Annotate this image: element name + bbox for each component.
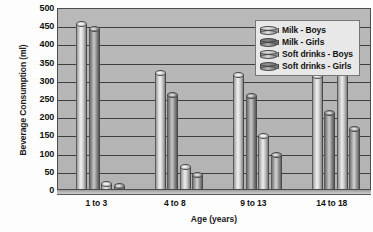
- y-tick-label: 50: [14, 167, 54, 177]
- cylinder-mid-icon: [260, 62, 277, 71]
- bar-body: [246, 96, 257, 190]
- legend-label: Milk - Boys: [282, 25, 326, 35]
- bar: [246, 96, 257, 190]
- swatch-top: [260, 38, 277, 43]
- bar-cap: [89, 26, 100, 32]
- x-axis-tick-labels: 1 to 34 to 89 to 1314 to 18: [57, 198, 371, 210]
- bar-cap: [271, 152, 282, 158]
- bar-cap: [192, 172, 203, 178]
- x-tick-label: 1 to 3: [61, 198, 131, 208]
- y-tick-label: 400: [14, 39, 54, 49]
- bar: [324, 113, 335, 190]
- swatch-top: [260, 50, 277, 55]
- bar-cap: [76, 21, 87, 27]
- bar-body: [76, 24, 87, 190]
- y-tick-label: 450: [14, 21, 54, 31]
- bar-body: [271, 155, 282, 190]
- x-tick-label: 14 to 18: [297, 198, 367, 208]
- beverage-consumption-bar-chart: Beverage Consumption (ml) 05010015020025…: [0, 0, 373, 232]
- bar: [349, 129, 360, 190]
- x-axis-title: Age (years): [57, 214, 371, 224]
- y-tick-label: 150: [14, 130, 54, 140]
- swatch-top: [260, 26, 277, 31]
- y-axis-tick-labels: 050100150200250300350400450500: [14, 6, 54, 192]
- chart-floor: [57, 189, 371, 195]
- bar: [155, 73, 166, 190]
- bar-body: [324, 113, 335, 190]
- y-tick-label: 100: [14, 149, 54, 159]
- bar: [312, 76, 323, 190]
- cylinder-light-icon: [260, 50, 277, 59]
- bar-cap: [114, 183, 125, 189]
- plot-area-wrapper: Milk - BoysMilk - GirlsSoft drinks - Boy…: [57, 8, 371, 195]
- bar-cap: [167, 92, 178, 98]
- legend-item: Milk - Boys: [260, 24, 353, 36]
- bar: [180, 167, 191, 190]
- x-tick-label: 9 to 13: [218, 198, 288, 208]
- legend-item: Milk - Girls: [260, 36, 353, 48]
- bar-body: [258, 136, 269, 190]
- bar-cap: [101, 181, 112, 187]
- y-tick-label: 350: [14, 58, 54, 68]
- bar-cap: [233, 72, 244, 78]
- bar: [258, 136, 269, 190]
- bar: [271, 155, 282, 190]
- bar-body: [180, 167, 191, 190]
- y-tick-label: 500: [14, 3, 54, 13]
- bar-body: [233, 75, 244, 190]
- bar-cap: [155, 70, 166, 76]
- y-tick-label: 300: [14, 76, 54, 86]
- y-tick-label: 250: [14, 94, 54, 104]
- y-tick-label: 0: [14, 185, 54, 195]
- bar-body: [167, 95, 178, 190]
- bar-body: [349, 129, 360, 190]
- legend-item: Soft drinks - Girls: [260, 60, 353, 72]
- bar: [76, 24, 87, 190]
- x-tick-label: 4 to 8: [140, 198, 210, 208]
- bar: [233, 75, 244, 190]
- bar-cap: [324, 110, 335, 116]
- bar: [167, 95, 178, 190]
- cylinder-light-icon: [260, 26, 277, 35]
- bar: [89, 29, 100, 190]
- y-tick-label: 200: [14, 112, 54, 122]
- bar-body: [155, 73, 166, 190]
- legend-label: Milk - Girls: [282, 37, 324, 47]
- legend-label: Soft drinks - Boys: [282, 49, 353, 59]
- swatch-top: [260, 62, 277, 67]
- cylinder-dark-icon: [260, 38, 277, 47]
- bar-body: [89, 29, 100, 190]
- legend-item: Soft drinks - Boys: [260, 48, 353, 60]
- bar-body: [312, 76, 323, 190]
- legend: Milk - BoysMilk - GirlsSoft drinks - Boy…: [255, 20, 360, 76]
- legend-label: Soft drinks - Girls: [282, 61, 351, 71]
- bar: [192, 175, 203, 190]
